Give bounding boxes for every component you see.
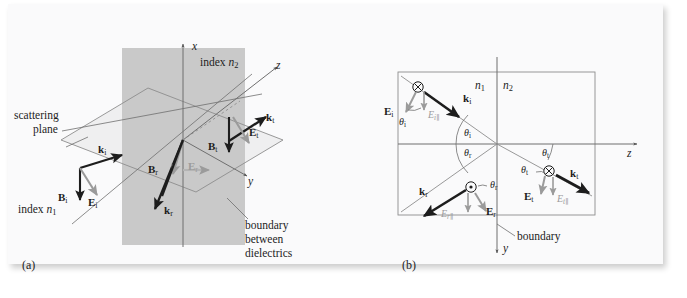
theta-incident-origin-subscript: i [469, 131, 471, 140]
axis-z-label-b: z [627, 148, 631, 160]
label-E-transmitted-par: Et∥ [557, 194, 568, 205]
arc-theta-incident-ray [408, 108, 421, 111]
label-vector-k-incident-b: ki [463, 93, 471, 106]
E-reflected-perp-subscript: r [493, 210, 496, 219]
label-E-incident-par: Ei∥ [428, 110, 439, 121]
theta-reflected-ray-leader [478, 185, 487, 186]
E-incident-perp-subscript: i [391, 110, 393, 119]
medium-n2-subscript: 2 [509, 84, 513, 93]
theta-transmitted-ray-subscript: t [526, 168, 528, 177]
theta-reflected-ray-subscript: r [495, 183, 497, 192]
axis-y-label-b: y [503, 243, 508, 255]
medium-n1-subscript: 1 [481, 84, 485, 93]
label-E-transmitted-perp: Et [524, 191, 534, 204]
label-theta-reflected-ray: θr [490, 180, 497, 191]
boundary-label-leader-b [497, 224, 515, 236]
k-transmitted-subscript-b: t [576, 172, 578, 181]
figure-root: x y z scattering plane index n1 index n2… [0, 0, 687, 298]
theta-reflected-origin-subscript: r [469, 151, 471, 160]
medium-n2-label: n2 [503, 80, 513, 93]
label-vector-k-reflected-b: kr [419, 186, 428, 199]
boundary-label-b: boundary [517, 231, 560, 243]
E-incident-par-bars: ∥ [436, 113, 439, 122]
theta-transmitted-origin-subscript: t [547, 151, 549, 160]
E-reflected-par-bars: ∥ [450, 212, 453, 221]
label-theta-transmitted-origin: θt [542, 148, 549, 159]
vector-E-incident-perp-b [406, 92, 416, 112]
k-reflected-subscript-b: r [425, 190, 428, 199]
k-incident-subscript-b: i [469, 97, 471, 106]
panel-b-graphics [0, 0, 687, 298]
vector-E-transmitted-perp-b [541, 176, 545, 194]
label-theta-incident-origin: θi [464, 128, 471, 139]
label-theta-incident-ray: θi [399, 117, 406, 128]
label-E-reflected-perp: Er [486, 206, 496, 219]
panel-b-caption: (b) [402, 259, 416, 271]
vector-E-reflected-perp-b [475, 193, 486, 211]
E-transmitted-perp-subscript: t [531, 195, 533, 204]
label-E-incident-perp: Ei [384, 106, 394, 119]
E-transmitted-par-bars: ∥ [565, 197, 568, 206]
theta-incident-ray-subscript: i [404, 120, 406, 129]
label-E-reflected-par: Er∥ [441, 209, 453, 220]
medium-n1-label: n1 [475, 80, 485, 93]
label-theta-transmitted-ray: θt [521, 165, 528, 176]
marker-dot-reflected [469, 185, 472, 188]
label-theta-reflected-origin: θr [464, 148, 471, 159]
panel-b: z y n1 n2 ki kr kt Ei Ei∥ Er Er∥ [0, 0, 687, 298]
label-vector-k-transmitted-b: kt [570, 168, 578, 181]
